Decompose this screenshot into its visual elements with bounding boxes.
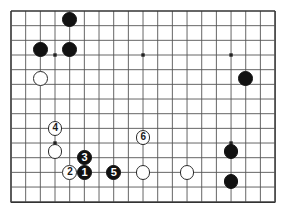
stone-move-6[interactable]: 6: [136, 130, 151, 145]
stone-move-4[interactable]: 4: [48, 121, 63, 136]
go-board-grid[interactable]: [0, 0, 283, 214]
stone-move-number: 3: [82, 152, 88, 163]
stone-black[interactable]: [238, 71, 253, 86]
stone-move-5[interactable]: 5: [106, 165, 121, 180]
star-point: [141, 53, 144, 56]
star-point: [229, 53, 232, 56]
stone-move-number: 5: [111, 166, 117, 177]
stone-move-number: 6: [140, 132, 145, 142]
stone-move-number: 1: [82, 166, 88, 177]
stone-black[interactable]: [62, 42, 77, 57]
go-board-diagram: 421356: [0, 0, 283, 214]
stone-white[interactable]: [136, 165, 151, 180]
stone-move-3[interactable]: 3: [77, 150, 92, 165]
stone-black[interactable]: [224, 174, 239, 189]
stone-move-number: 2: [67, 167, 72, 177]
stone-black[interactable]: [33, 42, 48, 57]
star-point: [53, 53, 56, 56]
stone-white[interactable]: [180, 165, 195, 180]
stone-move-1[interactable]: 1: [77, 165, 92, 180]
stone-move-2[interactable]: 2: [62, 165, 77, 180]
stone-move-number: 4: [52, 123, 57, 133]
stone-white[interactable]: [33, 71, 48, 86]
